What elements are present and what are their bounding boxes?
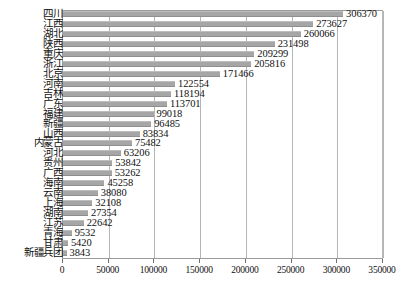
- x-tick-label: 100000: [140, 265, 167, 276]
- bar: [63, 240, 68, 246]
- bar-value-label: 205816: [254, 59, 285, 69]
- bar: [63, 131, 140, 137]
- bar: [63, 230, 72, 236]
- x-tick-label: 350000: [368, 265, 395, 276]
- bar: [63, 101, 167, 107]
- bar: [63, 180, 104, 186]
- bar: [63, 71, 220, 77]
- bar: [63, 61, 251, 67]
- bar: [63, 81, 175, 87]
- bar-value-label: 3843: [70, 248, 91, 258]
- bar-value-label: 171466: [223, 69, 254, 79]
- x-tick-mark: [245, 259, 246, 263]
- bar: [63, 11, 343, 17]
- bar: [63, 220, 84, 226]
- bar: [63, 31, 301, 37]
- bar: [63, 91, 171, 97]
- x-tick-label: 50000: [96, 265, 119, 276]
- bar: [63, 150, 121, 156]
- x-tick-mark: [336, 259, 337, 263]
- horizontal-bar-chart: 四川306370江西273627湖北260066陕西231498重庆209299…: [0, 0, 403, 293]
- bar: [63, 21, 313, 27]
- x-tick-mark: [199, 259, 200, 263]
- bar: [63, 41, 275, 47]
- x-tick-mark: [153, 259, 154, 263]
- bar: [63, 250, 67, 256]
- x-tick-mark: [291, 259, 292, 263]
- category-label: 新疆兵团: [24, 248, 63, 258]
- x-tick-label: 150000: [185, 265, 212, 276]
- x-axis: 0500001000001500002000002500003000003500…: [62, 259, 383, 289]
- bar: [63, 160, 112, 166]
- x-tick-mark: [382, 259, 383, 263]
- bar-row: 新疆兵团3843: [0, 249, 403, 258]
- x-tick-label: 250000: [277, 265, 304, 276]
- x-tick-mark: [108, 259, 109, 263]
- bar-rows-container: 四川306370江西273627湖北260066陕西231498重庆209299…: [0, 10, 403, 259]
- bar: [63, 170, 112, 176]
- x-tick-label: 200000: [231, 265, 258, 276]
- bar: [63, 140, 132, 146]
- bar: [63, 51, 254, 57]
- bar: [63, 200, 92, 206]
- bar: [63, 210, 88, 216]
- bar: [63, 111, 154, 117]
- x-tick-mark: [62, 259, 63, 263]
- bar: [63, 190, 98, 196]
- x-tick-label: 0: [60, 265, 65, 276]
- bar: [63, 121, 151, 127]
- x-tick-label: 300000: [323, 265, 350, 276]
- bar-value-label: 306370: [346, 9, 377, 19]
